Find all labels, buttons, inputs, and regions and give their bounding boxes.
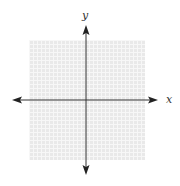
x-axis-label: x <box>166 94 172 105</box>
y-axis-label: y <box>82 10 88 21</box>
axes <box>0 0 180 186</box>
x-axis <box>12 97 158 104</box>
